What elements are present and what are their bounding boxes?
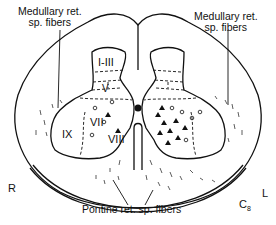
right-gray-matter — [142, 48, 225, 159]
label-segment: C8 — [239, 199, 251, 214]
spinal-cord-diagram — [0, 0, 276, 225]
lamina-9: IX — [62, 128, 72, 140]
label-line: sp. fibers — [18, 17, 82, 28]
label-line: sp. fibers — [194, 22, 258, 33]
label-medullary-right: Medullary ret. sp. fibers — [194, 11, 258, 33]
segment-number: 8 — [247, 205, 251, 212]
lamina-7: VII — [90, 116, 103, 128]
lamina-8: VIII — [108, 133, 125, 145]
lamina-5: V — [102, 83, 109, 94]
label-medullary-left: Medullary ret. sp. fibers — [18, 6, 82, 28]
label-side-left: L — [262, 188, 268, 199]
label-pontine: Pontine ret. sp. fibers — [82, 204, 181, 215]
segment-letter: C — [239, 198, 247, 210]
label-side-right: R — [8, 183, 16, 194]
lamina-1-3: I-III — [98, 56, 114, 68]
